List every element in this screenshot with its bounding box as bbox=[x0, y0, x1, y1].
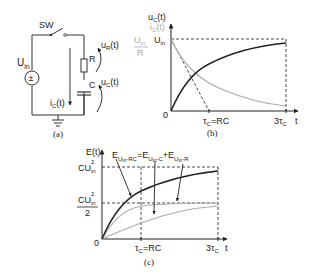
y-tick-uin-over-r-den: R bbox=[137, 48, 144, 58]
energy-equation: EUin-RC=EUin-C+EUin-R bbox=[112, 150, 189, 163]
guide-lines bbox=[171, 39, 286, 111]
ur-arrow-icon bbox=[96, 48, 101, 72]
source-label: Uin bbox=[17, 57, 30, 70]
voltage-source-icon: ± bbox=[25, 71, 39, 85]
svg-text:±: ± bbox=[29, 73, 34, 83]
origin-c: 0 bbox=[94, 238, 99, 248]
y-tick-uin: Uin bbox=[154, 35, 165, 46]
x-tick-tau: τC=RC bbox=[135, 243, 162, 254]
switch-label: SW bbox=[39, 20, 54, 30]
figure: SW ± Uin R C iC(t) uR(t) uC(t) (a) bbox=[0, 0, 311, 277]
ic-label: iC(t) bbox=[50, 98, 65, 109]
resistor-label: R bbox=[89, 54, 96, 64]
chart-c: EUin-RC=EUin-C+EUin-R E(t) CUin 2 CUin 2… bbox=[77, 147, 228, 267]
annotation-arrow-r bbox=[177, 164, 183, 201]
caption-c: (c) bbox=[144, 257, 154, 267]
x-tick-3tau: 3τC bbox=[274, 116, 288, 127]
component-curve-c bbox=[102, 206, 218, 239]
x-label-t: t bbox=[295, 116, 298, 126]
chart-b: uC(t) iC(t) Uin Uin R 0 τC=RC 3τC t (b) bbox=[134, 12, 298, 138]
uc-arrow-icon bbox=[97, 85, 102, 112]
circuit-panel: SW ± Uin R C iC(t) uR(t) uC(t) (a) bbox=[17, 20, 119, 139]
circuit-wires bbox=[32, 35, 84, 126]
x-label-t: t bbox=[225, 243, 228, 253]
ur-label: uR(t) bbox=[101, 40, 119, 51]
x-tick-tau: τC=RC bbox=[203, 116, 230, 127]
annotation-arrow-total bbox=[116, 159, 131, 196]
caption-a: (a) bbox=[53, 129, 63, 139]
annotation-arrow-c bbox=[154, 161, 155, 214]
uc-curve bbox=[171, 43, 286, 111]
caption-b: (b) bbox=[207, 128, 218, 138]
y-label-ic: iC(t) bbox=[150, 22, 165, 33]
y-tick-uin-over-r-num: Uin bbox=[134, 35, 145, 46]
y-label-e: E(t) bbox=[86, 147, 101, 157]
y-tick-cu2-half-den: 2 bbox=[85, 208, 90, 218]
svg-text:2: 2 bbox=[91, 159, 95, 165]
x-tick-3tau: 3τC bbox=[206, 243, 220, 254]
svg-text:2: 2 bbox=[91, 191, 95, 197]
uc-label: uC(t) bbox=[101, 77, 119, 88]
total-curve bbox=[102, 171, 218, 239]
resistor-icon bbox=[81, 59, 87, 72]
origin-b: 0 bbox=[163, 110, 168, 120]
capacitor-label: C bbox=[89, 80, 96, 90]
